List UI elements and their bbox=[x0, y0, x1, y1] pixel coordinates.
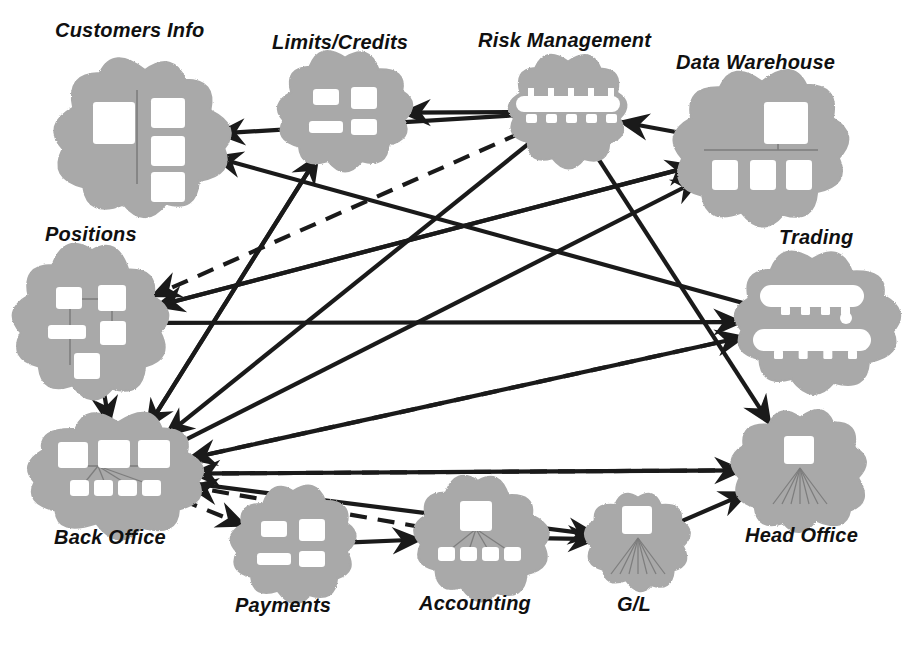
node-label-payments: Payments bbox=[235, 595, 331, 615]
node-label-head_office: Head Office bbox=[745, 525, 858, 545]
cloud-node-risk_management[interactable] bbox=[509, 55, 627, 169]
cloud-node-positions[interactable] bbox=[13, 244, 169, 400]
node-label-data_warehouse: Data Warehouse bbox=[676, 52, 835, 72]
node-label-risk_management: Risk Management bbox=[478, 30, 651, 50]
cloud-node-accounting[interactable] bbox=[414, 476, 549, 602]
edge-trading-to-customers_info[interactable] bbox=[214, 157, 746, 304]
cloud-shape bbox=[54, 58, 231, 217]
node-layer bbox=[13, 51, 901, 603]
cloud-node-gl[interactable] bbox=[585, 494, 690, 591]
node-label-trading: Trading bbox=[779, 227, 853, 247]
cloud-node-limits_credits[interactable] bbox=[278, 51, 412, 172]
edge-risk_management-to-limits_credits[interactable] bbox=[402, 112, 515, 113]
node-label-limits_credits: Limits/Credits bbox=[272, 32, 408, 52]
cloud-node-payments[interactable] bbox=[231, 486, 356, 604]
node-label-accounting: Accounting bbox=[419, 593, 531, 613]
cloud-node-head_office[interactable] bbox=[731, 410, 866, 532]
diagram-canvas: Customers InfoLimits/CreditsRisk Managem… bbox=[0, 0, 923, 647]
edge-payments-to-accounting[interactable] bbox=[345, 540, 421, 543]
cloud-node-customers_info[interactable] bbox=[54, 58, 231, 217]
cloud-node-trading[interactable] bbox=[735, 251, 900, 394]
node-label-gl: G/L bbox=[617, 594, 651, 614]
cloud-shape bbox=[231, 486, 356, 604]
cloud-shape bbox=[673, 70, 848, 227]
edge-back_office-to-head_office[interactable] bbox=[192, 470, 743, 473]
cloud-shape bbox=[735, 251, 900, 394]
node-label-back_office: Back Office bbox=[54, 527, 166, 547]
cloud-shape bbox=[278, 51, 412, 172]
node-label-positions: Positions bbox=[45, 224, 137, 244]
cloud-node-data_warehouse[interactable] bbox=[673, 70, 848, 227]
network-diagram-svg bbox=[0, 0, 923, 647]
edge-positions-to-trading[interactable] bbox=[158, 322, 742, 323]
cloud-shape bbox=[28, 413, 203, 540]
cloud-node-back_office[interactable] bbox=[28, 413, 203, 540]
node-label-customers_info: Customers Info bbox=[55, 20, 204, 40]
